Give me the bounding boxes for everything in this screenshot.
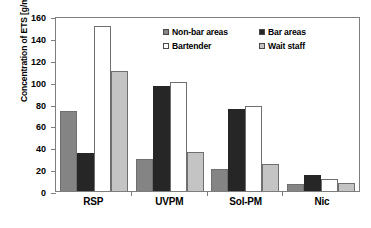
bar <box>153 86 170 191</box>
bar-group <box>56 18 132 191</box>
y-axis-tick-label: 100 <box>10 79 46 88</box>
y-axis-tick-label: 140 <box>10 35 46 44</box>
y-axis-tick-label: 160 <box>10 14 46 23</box>
y-axis-tick-label: 20 <box>10 167 46 176</box>
x-axis-label: UVPM <box>131 196 207 207</box>
x-axis-label: Nic <box>284 196 360 207</box>
x-axis-label: Sol-PM <box>208 196 284 207</box>
bar <box>136 159 153 191</box>
y-axis-tick-mark <box>51 127 56 128</box>
ets-concentration-bar-chart: Concentration of ETS [g/m³] 020406080100… <box>0 0 371 228</box>
bar <box>211 169 228 191</box>
y-axis-tick-mark <box>51 18 56 19</box>
y-axis-tick-mark <box>51 84 56 85</box>
bar <box>228 109 245 191</box>
legend-label: Non-bar areas <box>172 27 228 37</box>
y-axis-tick-mark <box>51 62 56 63</box>
bar <box>321 179 338 191</box>
y-axis-tick-mark <box>51 149 56 150</box>
bar <box>77 153 94 191</box>
bar <box>60 111 77 191</box>
bar <box>111 71 128 191</box>
chart-legend: Non-bar areasBar areasBartenderWait staf… <box>163 27 355 51</box>
bar <box>245 106 262 191</box>
legend-item: Wait staff <box>259 41 355 51</box>
y-axis-tick-label: 0 <box>10 189 46 198</box>
bar <box>287 184 304 191</box>
legend-label: Bartender <box>172 41 211 51</box>
legend-item: Bartender <box>163 41 259 51</box>
y-axis-tick-label: 120 <box>10 57 46 66</box>
legend-item: Bar areas <box>259 27 355 37</box>
bar <box>338 183 355 191</box>
legend-item: Non-bar areas <box>163 27 259 37</box>
legend-label: Bar areas <box>268 27 306 37</box>
y-axis-tick-mark <box>51 171 56 172</box>
legend-swatch-icon <box>163 29 169 35</box>
y-axis-tick-mark <box>51 106 56 107</box>
y-axis-tick-mark <box>51 193 56 194</box>
legend-swatch-icon <box>259 43 265 49</box>
x-axis-labels: RSPUVPMSol-PMNic <box>55 196 360 207</box>
bar <box>170 82 187 191</box>
legend-swatch-icon <box>163 43 169 49</box>
x-axis-label: RSP <box>55 196 131 207</box>
bar <box>304 175 321 191</box>
legend-label: Wait staff <box>268 41 305 51</box>
y-axis-tick-label: 40 <box>10 145 46 154</box>
y-axis-tick-label: 60 <box>10 123 46 132</box>
bar <box>187 152 204 191</box>
bar <box>94 26 111 191</box>
bar <box>262 164 279 191</box>
y-axis-tick-mark <box>51 40 56 41</box>
y-axis-tick-label: 80 <box>10 101 46 110</box>
legend-swatch-icon <box>259 29 265 35</box>
